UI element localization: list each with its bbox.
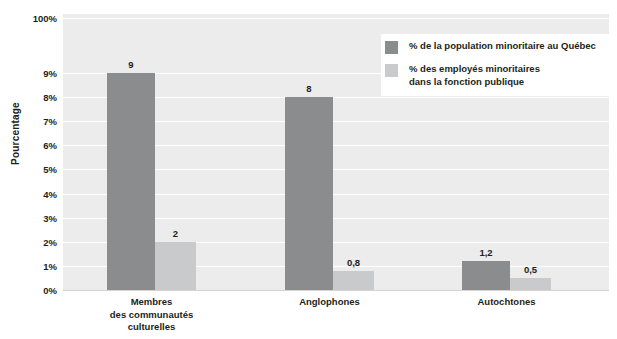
category-label: Anglophones bbox=[299, 296, 360, 309]
bar bbox=[285, 97, 333, 290]
category-label: Autochtones bbox=[477, 296, 535, 309]
gridline bbox=[63, 18, 609, 19]
legend-swatch-icon bbox=[385, 41, 398, 54]
chart-legend: % de la population minoritaire au Québec… bbox=[381, 34, 613, 96]
legend-label: % des employés minoritaires dans la fonc… bbox=[409, 63, 540, 88]
legend-label: % de la population minoritaire au Québec bbox=[409, 40, 596, 53]
x-axis-baseline bbox=[63, 290, 609, 291]
y-axis-tick-labels: 100%9%8%7%6%5%4%3%2%1%0% bbox=[0, 0, 62, 300]
y-tick-label: 1% bbox=[43, 260, 57, 271]
y-tick-label: 8% bbox=[43, 92, 57, 103]
bar-value-label: 0,5 bbox=[524, 264, 537, 275]
bar-chart: Pourcentage 100%9%8%7%6%5%4%3%2%1%0% 928… bbox=[0, 0, 617, 339]
bar bbox=[462, 261, 510, 290]
y-tick-label: 9% bbox=[43, 68, 57, 79]
legend-item: % de la population minoritaire au Québec bbox=[385, 40, 609, 54]
y-tick-label: 5% bbox=[43, 164, 57, 175]
bar-value-label: 0,8 bbox=[347, 257, 360, 268]
y-tick-label: 4% bbox=[43, 188, 57, 199]
y-tick-label: 6% bbox=[43, 140, 57, 151]
y-tick-label: 3% bbox=[43, 212, 57, 223]
y-tick-label: 100% bbox=[33, 13, 57, 24]
bar-value-label: 1,2 bbox=[479, 247, 492, 258]
bar bbox=[333, 271, 374, 290]
bar-value-label: 8 bbox=[306, 83, 311, 94]
y-tick-label: 7% bbox=[43, 116, 57, 127]
y-tick-label: 0% bbox=[43, 285, 57, 296]
bar-value-label: 2 bbox=[173, 228, 178, 239]
y-tick-label: 2% bbox=[43, 236, 57, 247]
bar bbox=[107, 73, 155, 290]
legend-item: % des employés minoritaires dans la fonc… bbox=[385, 63, 609, 88]
bar bbox=[155, 242, 196, 290]
bar-value-label: 9 bbox=[128, 59, 133, 70]
legend-swatch-icon bbox=[385, 64, 398, 77]
bar bbox=[510, 278, 551, 290]
category-label: Membres des communautés culturelles bbox=[110, 296, 193, 334]
